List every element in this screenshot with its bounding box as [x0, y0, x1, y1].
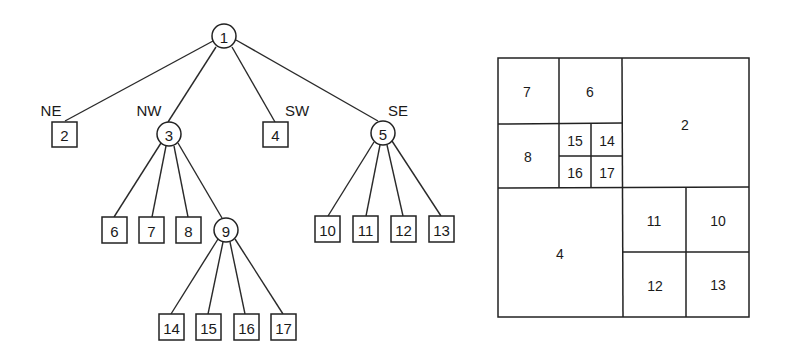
quadtree-cell-4: 4 [556, 246, 564, 262]
quadtree-cell-13: 13 [710, 277, 726, 293]
label-ne: NE [41, 102, 62, 119]
quadtree-cell-6: 6 [586, 84, 594, 100]
node-label: 11 [358, 222, 374, 239]
quadtree-labels: 7 6 2 8 15 14 16 17 4 11 10 12 13 [523, 84, 726, 294]
node-label: 15 [200, 320, 217, 337]
quadtree-cell-7: 7 [523, 84, 531, 100]
edge-5-11 [366, 145, 380, 216]
quadtree-figure: NE NW SW SE 1 3 5 9 2 4 6 7 8 10 [0, 0, 786, 354]
edge-3-7 [152, 146, 166, 217]
label-se: SE [388, 102, 408, 119]
tree-node-17: 17 [271, 314, 296, 340]
node-label: 16 [238, 320, 255, 337]
node-label: 7 [147, 223, 155, 240]
label-sw: SW [285, 102, 310, 119]
node-label: 17 [275, 320, 292, 337]
tree-edges [65, 40, 441, 314]
node-label: 5 [379, 126, 387, 143]
split-main-horizontal [498, 187, 749, 188]
tree-node-2: 2 [52, 122, 77, 147]
quadtree-cell-10: 10 [710, 213, 726, 229]
quadtree-cell-15: 15 [567, 133, 583, 149]
edge-1-3 [168, 47, 216, 122]
tree-node-6: 6 [102, 217, 127, 243]
node-label: 10 [319, 222, 336, 239]
tree-node-3: 3 [157, 122, 181, 146]
node-label: 2 [60, 127, 68, 144]
quadtree-cell-11: 11 [647, 213, 662, 229]
quadtree-cell-17: 17 [599, 165, 615, 181]
node-label: 3 [165, 127, 173, 144]
node-label: 12 [395, 222, 412, 239]
tree-node-16: 16 [234, 314, 259, 340]
node-label: 8 [184, 223, 192, 240]
node-label: 1 [220, 29, 228, 46]
tree-node-7: 7 [139, 217, 164, 243]
node-label: 6 [110, 223, 118, 240]
node-label: 14 [163, 320, 180, 337]
tree-node-15: 15 [196, 314, 221, 340]
quadtree-cell-16: 16 [567, 165, 583, 181]
quadtree-cell-8: 8 [524, 149, 532, 165]
tree-node-9: 9 [214, 218, 238, 242]
label-nw: NW [137, 102, 163, 119]
edge-3-9 [178, 143, 222, 218]
split-nw-horizontal [498, 123, 622, 124]
edge-9-15 [208, 242, 223, 314]
tree-node-11: 11 [353, 216, 378, 242]
edge-5-10 [328, 142, 374, 216]
tree-node-5: 5 [371, 121, 395, 145]
tree-node-1: 1 [212, 24, 236, 48]
quadtree-cell-12: 12 [647, 278, 663, 294]
node-label: 4 [271, 127, 279, 144]
tree-node-4: 4 [263, 122, 288, 147]
quadtree-cell-2: 2 [681, 117, 689, 133]
tree-node-10: 10 [315, 216, 340, 242]
edge-9-16 [230, 242, 245, 314]
tree-node-8: 8 [176, 217, 201, 243]
tree-node-13: 13 [429, 216, 454, 242]
tree-node-14: 14 [159, 314, 184, 340]
node-label: 9 [222, 223, 230, 240]
quadtree-cell-14: 14 [599, 133, 615, 149]
edge-5-13 [392, 141, 441, 216]
node-label: 13 [433, 222, 450, 239]
tree-node-12: 12 [391, 216, 416, 242]
edge-5-12 [387, 145, 403, 216]
